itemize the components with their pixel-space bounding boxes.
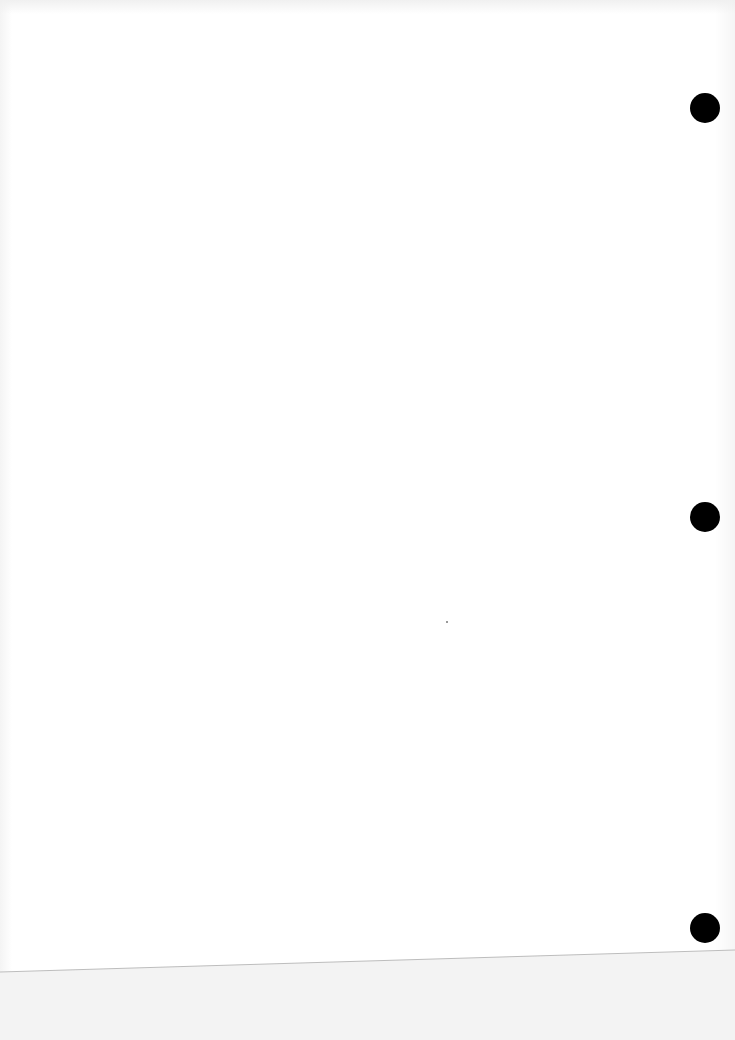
top-scan-shadow [0,0,735,14]
punch-hole-middle [690,502,720,532]
area-below-paper-edge [0,0,735,1040]
punch-hole-bottom [690,913,720,943]
paper-edge-line [0,0,735,1040]
punch-hole-top [690,93,720,123]
scanned-paper-page [0,0,735,1040]
scan-speck [446,621,448,623]
